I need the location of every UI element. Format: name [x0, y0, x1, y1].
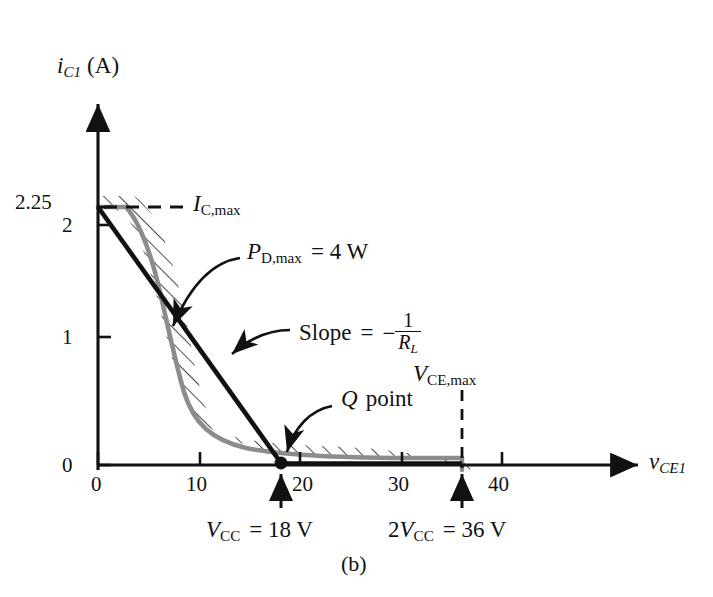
slope-numerator: 1 — [395, 310, 421, 331]
x-tick-label-30: 30 — [388, 474, 409, 495]
slope-label: Slope=−1RL — [299, 312, 421, 358]
x-axis-label: vCE1 — [649, 450, 686, 475]
q-point-symbol: Q — [341, 386, 358, 411]
q-point-word: point — [366, 386, 413, 411]
y-axis-subscript: C1 — [63, 63, 81, 80]
x-tick-label-0: 0 — [91, 474, 102, 495]
vce-max-symbol: V — [413, 361, 427, 386]
ic-max-symbol: I — [193, 191, 201, 216]
y-tick-label-0: 0 — [62, 455, 73, 476]
slope-minus-sign: − — [382, 322, 395, 345]
ic-max-subscript: C,max — [201, 201, 241, 218]
slope-leader-arrow — [232, 330, 290, 354]
two-vcc-subscript: CC — [414, 527, 434, 544]
load-line-plot — [0, 0, 713, 597]
y-tick-label-2: 2 — [62, 215, 73, 236]
x-tick-label-10: 10 — [186, 474, 207, 495]
two-vcc-prefix: 2 — [388, 517, 400, 542]
two-vcc-symbol: V — [400, 517, 414, 542]
x-tick-label-20: 20 — [292, 474, 313, 495]
pd-max-label: PD,max= 4 W — [247, 240, 368, 265]
slope-equals: = — [360, 320, 373, 345]
pd-max-value: = 4 W — [311, 239, 368, 264]
ic-max-label: IC,max — [193, 192, 241, 217]
x-tick-label-40: 40 — [488, 474, 509, 495]
slope-denominator: RL — [395, 331, 421, 356]
y-axis-unit: (A) — [87, 53, 119, 78]
y-axis-label: iC1(A) — [57, 54, 119, 79]
figure-container: iC1(A) vCE1 0 1 2 2.25 0 10 20 30 40 IC,… — [0, 0, 713, 597]
vce-max-subscript: CE,max — [427, 371, 476, 388]
vcc-symbol: V — [206, 517, 220, 542]
q-point-marker — [275, 457, 288, 470]
pd-max-symbol: P — [247, 239, 261, 264]
y-axis-ticks — [98, 207, 111, 465]
vcc-value: = 18 V — [249, 517, 313, 542]
figure-caption: (b) — [341, 553, 367, 575]
x-axis-subscript: CE1 — [659, 459, 686, 476]
slope-denominator-subscript: L — [411, 341, 418, 356]
pd-max-subscript: D,max — [261, 249, 302, 266]
slope-fraction: 1RL — [395, 310, 421, 356]
y-tick-label-1: 1 — [62, 327, 73, 348]
vcc-label: VCC= 18 V — [206, 518, 313, 543]
slope-denominator-symbol: R — [398, 331, 410, 353]
vcc-subscript: CC — [220, 527, 240, 544]
two-vcc-label: 2VCC= 36 V — [388, 518, 506, 543]
x-axis-symbol: v — [649, 449, 659, 474]
vce-max-label: VCE,max — [413, 362, 476, 387]
slope-word: Slope — [299, 320, 351, 345]
y-tick-label-2-25: 2.25 — [15, 192, 52, 213]
q-point-label: Qpoint — [341, 387, 413, 410]
axis-lines — [98, 104, 638, 470]
two-vcc-value: = 36 V — [443, 517, 507, 542]
